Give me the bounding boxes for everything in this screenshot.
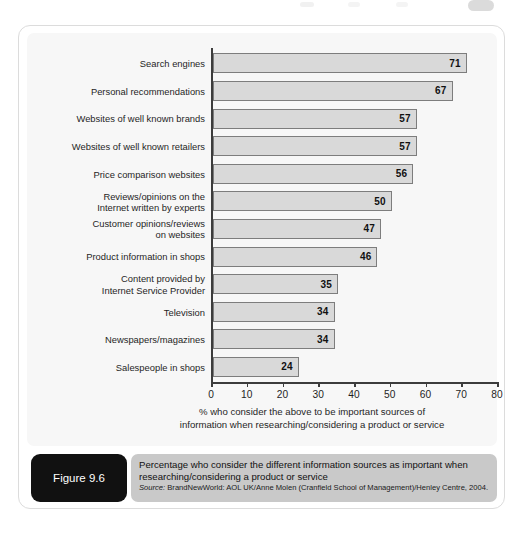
bar-value-label: 34 [317, 334, 334, 345]
figure-caption-title: Percentage who consider the different in… [139, 459, 489, 482]
category-label: Search engines [35, 50, 205, 78]
category-label: Personal recommendations [35, 78, 205, 106]
bar-value-label: 57 [399, 113, 416, 124]
category-label: Reviews/opinions on the Internet written… [35, 188, 205, 216]
x-axis-tick [426, 382, 428, 387]
category-label: Television [35, 298, 205, 326]
x-axis-caption-line-2: information when researching/considering… [137, 418, 487, 431]
bar-row: Salespeople in shops24 [27, 354, 497, 382]
scan-speck [348, 2, 360, 7]
bar: 50 [213, 191, 392, 211]
bar: 47 [213, 219, 381, 239]
bar: 67 [213, 81, 453, 101]
scan-speck [468, 0, 494, 11]
scan-speck [396, 2, 408, 7]
bar: 57 [213, 136, 417, 156]
category-label: Websites of well known retailers [35, 133, 205, 161]
category-label: Price comparison websites [35, 160, 205, 188]
bar-row: Reviews/opinions on the Internet written… [27, 188, 497, 216]
bar-value-label: 24 [281, 361, 298, 372]
category-label: Salespeople in shops [35, 354, 205, 382]
bar-value-label: 47 [363, 223, 380, 234]
source-text: BrandNewWorld: AOL UK/Anne Molen (Cranfi… [165, 483, 488, 492]
bar: 46 [213, 247, 377, 267]
bar-value-label: 34 [317, 306, 334, 317]
x-axis-tick [390, 382, 392, 387]
x-axis-tick-label: 80 [482, 389, 512, 400]
x-axis-tick [461, 382, 463, 387]
x-axis-tick-label: 60 [411, 389, 441, 400]
x-axis-tick-label: 40 [339, 389, 369, 400]
figure-number-badge: Figure 9.6 [31, 454, 127, 502]
figure-caption-box: Percentage who consider the different in… [131, 454, 497, 502]
x-axis-tick [247, 382, 249, 387]
bar-row: Television34 [27, 298, 497, 326]
bar-row: Websites of well known retailers57 [27, 133, 497, 161]
x-axis-tick [283, 382, 285, 387]
figure-number-label: Figure 9.6 [53, 472, 105, 484]
bar-row: Personal recommendations67 [27, 78, 497, 106]
x-axis-tick-label: 0 [196, 389, 226, 400]
bar-row: Product information in shops46 [27, 243, 497, 271]
source-prefix: Source: [139, 483, 165, 492]
x-axis-caption-line-1: % who consider the above to be important… [137, 405, 487, 418]
category-label: Product information in shops [35, 243, 205, 271]
bar-value-label: 57 [399, 141, 416, 152]
category-label: Content provided by Internet Service Pro… [35, 271, 205, 299]
scan-artifacts [0, 0, 528, 14]
bar-row: Price comparison websites56 [27, 160, 497, 188]
x-axis-caption: % who consider the above to be important… [137, 405, 487, 431]
bar-value-label: 67 [435, 85, 452, 96]
x-axis-tick [211, 382, 213, 387]
x-axis-tick-label: 70 [446, 389, 476, 400]
bar-value-label: 50 [374, 196, 391, 207]
bar: 35 [213, 274, 338, 294]
bar: 24 [213, 357, 299, 377]
x-axis-tick-label: 50 [375, 389, 405, 400]
chart-plate: Search engines71Personal recommendations… [27, 33, 497, 446]
bar-row: Content provided by Internet Service Pro… [27, 271, 497, 299]
x-axis-tick [318, 382, 320, 387]
bar: 56 [213, 164, 413, 184]
bar: 34 [213, 329, 335, 349]
bar-value-label: 35 [321, 279, 338, 290]
bar-row: Search engines71 [27, 50, 497, 78]
category-label: Newspapers/magazines [35, 326, 205, 354]
category-label: Customer opinions/reviews on websites [35, 216, 205, 244]
bar-row: Websites of well known brands57 [27, 105, 497, 133]
figure-caption-source: Source: BrandNewWorld: AOL UK/Anne Molen… [139, 483, 489, 492]
bar-value-label: 71 [449, 58, 466, 69]
bar-row: Customer opinions/reviews on websites47 [27, 216, 497, 244]
bar-rows: Search engines71Personal recommendations… [27, 50, 497, 381]
figure-caption-band: Figure 9.6 Percentage who consider the d… [27, 454, 497, 502]
x-axis-tick [497, 382, 499, 387]
x-axis-tick-label: 30 [303, 389, 333, 400]
bar: 57 [213, 109, 417, 129]
figure-panel: Search engines71Personal recommendations… [18, 25, 505, 509]
bar-chart: Search engines71Personal recommendations… [27, 33, 497, 446]
x-axis-tick-label: 10 [232, 389, 262, 400]
scan-speck [300, 2, 314, 7]
x-axis-tick-label: 20 [268, 389, 298, 400]
bar-value-label: 56 [396, 168, 413, 179]
x-axis-tick [354, 382, 356, 387]
category-label: Websites of well known brands [35, 105, 205, 133]
bar: 71 [213, 53, 467, 73]
bar-value-label: 46 [360, 251, 377, 262]
bar-row: Newspapers/magazines34 [27, 326, 497, 354]
bar: 34 [213, 302, 335, 322]
